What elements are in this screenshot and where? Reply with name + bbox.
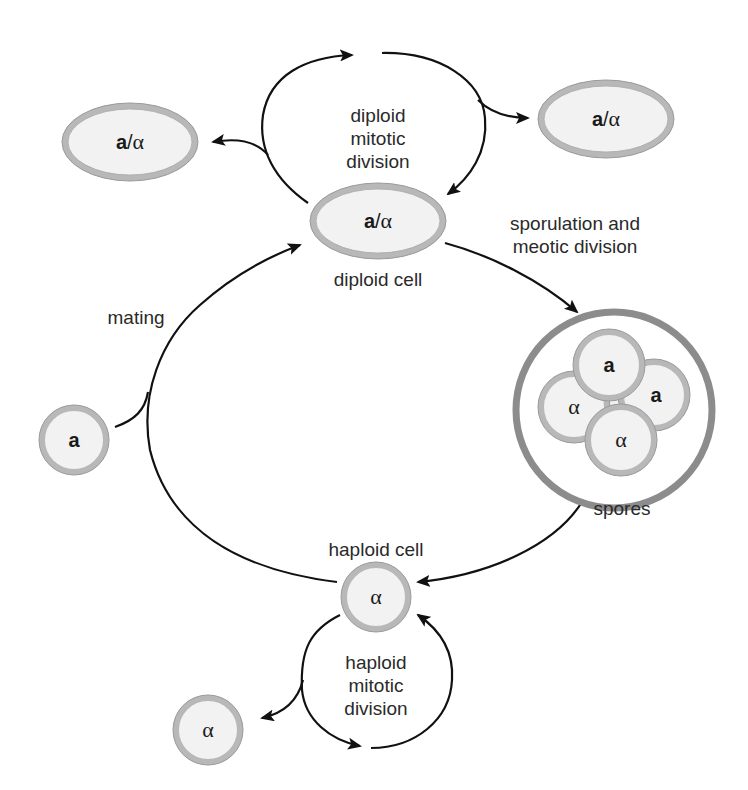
label-haploid-mitotic-division: haploid mitotic division xyxy=(316,651,436,720)
spores-to-haploid-arrow xyxy=(418,502,582,582)
svg-text:α: α xyxy=(202,717,214,742)
label-line: diploid xyxy=(318,104,438,127)
svg-text:α: α xyxy=(615,427,627,452)
svg-text:a/α: a/α xyxy=(116,129,145,154)
spore-bottom: α xyxy=(585,404,657,476)
svg-text:a/α: a/α xyxy=(364,208,393,233)
svg-text:a: a xyxy=(650,384,662,406)
label-haploid-cell: haploid cell xyxy=(320,538,432,561)
label-line: sporulation and xyxy=(500,212,650,235)
haploid-cell-alpha-daughter: α xyxy=(173,695,243,765)
label-diploid-cell: diploid cell xyxy=(316,268,440,291)
label-sporulation: sporulation and meotic division xyxy=(500,212,650,258)
haploid-cell-alpha: α xyxy=(341,562,411,632)
label-line: haploid xyxy=(316,651,436,674)
svg-text:a/α: a/α xyxy=(592,106,621,131)
diploid-cell-center: a/α xyxy=(310,183,446,259)
svg-text:a: a xyxy=(68,429,80,451)
label-line: division xyxy=(318,150,438,173)
label-line: mitotic xyxy=(316,674,436,697)
mating-arc xyxy=(115,245,337,582)
label-mating: mating xyxy=(96,306,176,329)
svg-text:α: α xyxy=(568,394,580,419)
label-diploid-mitotic-division: diploid mitotic division xyxy=(318,104,438,173)
spore-top: a xyxy=(573,329,645,401)
svg-text:α: α xyxy=(370,584,382,609)
svg-text:a: a xyxy=(603,354,615,376)
label-spores: spores xyxy=(582,497,662,520)
haploid-cell-a: a xyxy=(39,405,109,475)
label-line: meotic division xyxy=(500,235,650,258)
ascus-spores: α a a α xyxy=(516,312,712,508)
diploid-cell-left: a/α xyxy=(62,103,198,181)
label-line: division xyxy=(316,697,436,720)
diploid-cell-right: a/α xyxy=(538,80,674,158)
label-line: mitotic xyxy=(318,127,438,150)
